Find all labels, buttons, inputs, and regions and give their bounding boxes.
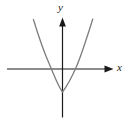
x-axis-label: x: [117, 62, 122, 73]
parabola-figure: y x: [0, 0, 128, 124]
y-axis-arrow-icon: [59, 18, 66, 27]
graph-canvas: [0, 0, 128, 124]
parabola-curve: [33, 19, 92, 92]
y-axis-label: y: [58, 2, 63, 13]
x-axis-arrow-icon: [105, 66, 114, 73]
